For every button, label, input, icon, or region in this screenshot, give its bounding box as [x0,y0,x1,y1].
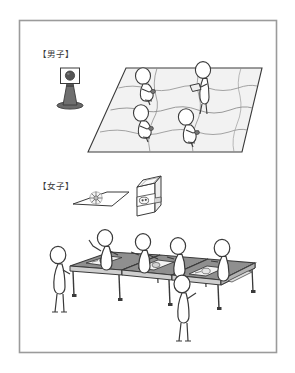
tee-ball [65,71,74,80]
label-girls: 【女子】 [38,181,74,191]
label-boys: 【男子】 [38,49,74,59]
figure-illustration: 【男子】 [0,0,295,373]
illustration-page: 【男子】 [0,0,295,373]
flower-shape [90,192,103,205]
